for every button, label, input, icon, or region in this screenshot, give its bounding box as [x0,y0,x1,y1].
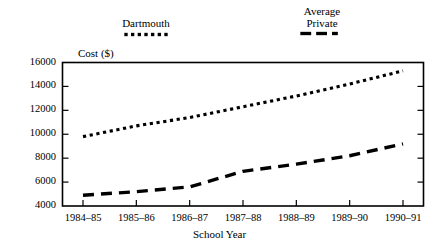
y-axis-tick-label: 10000 [10,127,56,138]
y-axis-tick-label: 14000 [10,79,56,90]
x-axis-tick-label: 1988–89 [266,212,326,223]
y-axis-tick-label: 8000 [10,151,56,162]
y-axis-ticks [63,86,424,182]
x-axis-tick-label: 1985–86 [106,212,166,223]
y-axis-tick-label: 12000 [10,103,56,114]
x-axis-tick-label: 1990–91 [373,212,433,223]
x-axis-tick-label: 1984–85 [53,212,113,223]
x-axis-tick-label: 1987–88 [213,212,273,223]
series-line-average-private [83,144,403,195]
y-axis-tick-label: 4000 [10,199,56,210]
x-axis-tick-label: 1986–87 [160,212,220,223]
x-axis-tick-label: 1989–90 [320,212,380,223]
plot-frame [63,63,424,207]
chart-figure: Dartmouth Average Private Cost ($) Schoo… [0,0,439,250]
series-line-dartmouth [83,71,403,137]
y-axis-tick-label: 16000 [10,56,56,67]
y-axis-tick-label: 6000 [10,175,56,186]
x-axis-ticks [83,200,403,206]
